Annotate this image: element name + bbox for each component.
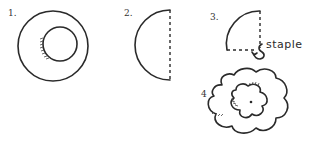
step-2: 2. [124, 8, 170, 80]
quarter-circle-arc [226, 11, 260, 50]
step-4: 4 [201, 68, 288, 133]
step-3: 3. staple [210, 11, 303, 59]
step-1-label: 1. [8, 8, 17, 18]
staple-label: staple [266, 38, 303, 51]
diagram-canvas: 1. 2. 3. staple 4 [0, 0, 316, 146]
center-dot [250, 101, 253, 104]
outer-wavy-ring [208, 68, 287, 133]
step-1: 1. [8, 8, 88, 81]
step-4-label: 4 [201, 89, 207, 99]
staple-arrow-icon [254, 44, 264, 59]
step-2-label: 2. [124, 8, 133, 18]
half-circle-arc [135, 10, 170, 80]
inner-circle [43, 27, 77, 61]
hatch-marks-step-4 [212, 82, 259, 116]
inner-wavy-ring [231, 84, 267, 118]
step-3-label: 3. [210, 12, 219, 22]
